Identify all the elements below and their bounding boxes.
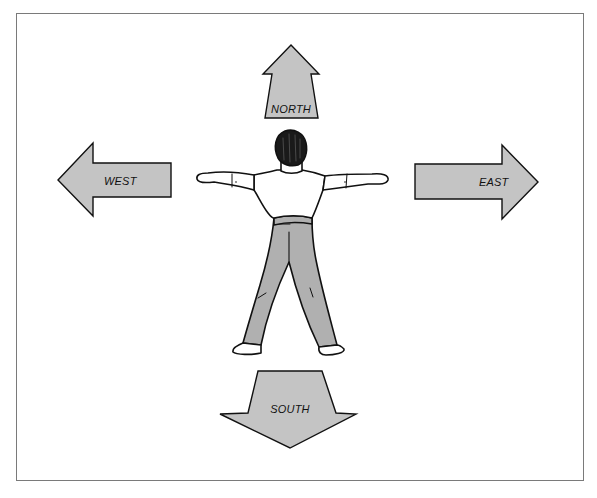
east-arrow-icon (415, 145, 538, 219)
west-label: WEST (104, 175, 138, 187)
east-label: EAST (479, 176, 510, 188)
north-arrow: NORTH (263, 45, 319, 118)
left-arm (197, 172, 254, 190)
south-label: SOUTH (270, 403, 310, 415)
left-foot (233, 343, 261, 354)
south-arrow: SOUTH (220, 371, 356, 448)
east-arrow: EAST (415, 145, 538, 219)
north-label: NORTH (271, 103, 311, 115)
right-foot (319, 345, 344, 355)
head (275, 130, 306, 166)
right-arm (323, 174, 388, 190)
shirt (254, 170, 325, 218)
pants (243, 218, 337, 347)
person-back-view-icon (197, 130, 388, 355)
compass-diagram: NORTH WEST EAST SOUTH (0, 0, 597, 498)
west-arrow: WEST (58, 143, 171, 216)
